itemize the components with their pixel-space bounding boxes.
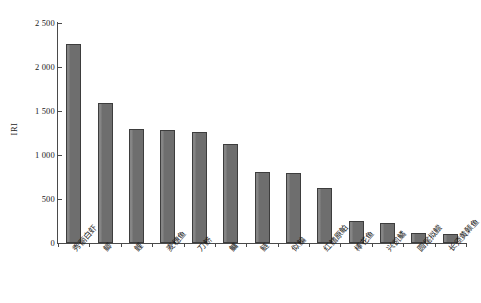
x-tick-mark (372, 243, 373, 247)
x-tick-mark (403, 243, 404, 247)
x-tick-mark (58, 243, 59, 247)
x-tick-mark (435, 243, 436, 247)
bar (98, 103, 113, 243)
x-tick-mark (466, 243, 467, 247)
y-tick-label: 0 (0, 239, 55, 248)
y-tick-label: 2 500 (0, 19, 55, 28)
x-tick-mark (89, 243, 90, 247)
x-tick-mark (184, 243, 185, 247)
bar (286, 173, 301, 243)
x-tick-mark (152, 243, 153, 247)
bar (317, 188, 332, 243)
x-tick-mark (215, 243, 216, 247)
bars-container (58, 23, 466, 243)
x-tick-mark (340, 243, 341, 247)
bar (223, 144, 238, 243)
y-tick-label: 1 500 (0, 107, 55, 116)
x-tick-mark (246, 243, 247, 247)
x-tick-mark (121, 243, 122, 247)
bar (160, 130, 175, 243)
y-tick-label: 1 000 (0, 151, 55, 160)
y-axis-title: IRI (9, 123, 19, 136)
bar (129, 129, 144, 243)
bar (192, 132, 207, 243)
x-tick-mark (278, 243, 279, 247)
bar (66, 44, 81, 243)
bar (255, 172, 270, 243)
y-tick-label: 2 000 (0, 63, 55, 72)
x-tick-mark (309, 243, 310, 247)
y-tick-label: 500 (0, 195, 55, 204)
